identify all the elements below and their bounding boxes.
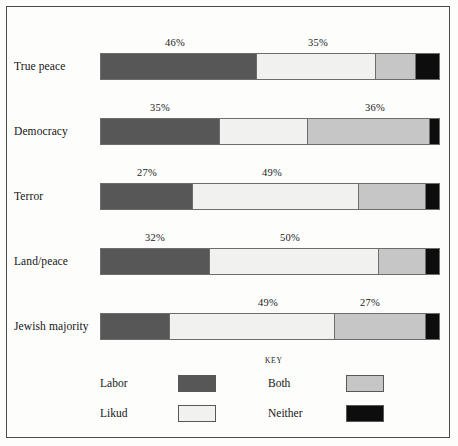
value-label: 35% bbox=[308, 37, 328, 48]
bar-segment-labor bbox=[101, 249, 209, 274]
bar-segment-neither bbox=[425, 249, 439, 274]
chart-row: Land/peace32%50% bbox=[0, 232, 458, 297]
stacked-bar bbox=[100, 248, 440, 275]
bar-segment-likud bbox=[209, 249, 378, 274]
bar-segment-labor bbox=[101, 119, 219, 144]
legend-item-likud: Likud bbox=[100, 402, 216, 424]
legend-swatch-labor bbox=[178, 375, 216, 392]
stacked-bar bbox=[100, 183, 440, 210]
legend-item-labor: Labor bbox=[100, 372, 216, 394]
legend-item-neither: Neither bbox=[268, 402, 384, 424]
legend-swatch-neither bbox=[346, 405, 384, 422]
bar-segment-likud bbox=[219, 119, 307, 144]
category-label: Land/peace bbox=[14, 255, 100, 267]
legend-label: Labor bbox=[100, 377, 178, 389]
category-label: Terror bbox=[14, 190, 100, 202]
bar-segment-both bbox=[375, 54, 416, 79]
bar-segment-labor bbox=[101, 314, 169, 339]
stacked-bar bbox=[100, 313, 440, 340]
figure-container: True peace46%35%Democracy35%36%Terror27%… bbox=[0, 0, 458, 446]
bar-segment-neither bbox=[415, 54, 439, 79]
bar-segment-likud bbox=[256, 54, 374, 79]
category-label: Jewish majority bbox=[14, 320, 100, 332]
value-label: 50% bbox=[280, 232, 300, 243]
bar-segment-both bbox=[334, 314, 425, 339]
stacked-bar bbox=[100, 118, 440, 145]
bar-segment-neither bbox=[425, 314, 439, 339]
value-label: 27% bbox=[137, 167, 157, 178]
bar-segment-likud bbox=[169, 314, 335, 339]
value-label: 32% bbox=[145, 232, 165, 243]
legend-label: Likud bbox=[100, 407, 178, 419]
bar-segment-both bbox=[307, 119, 429, 144]
chart-row: True peace46%35% bbox=[0, 37, 458, 102]
stacked-bar bbox=[100, 53, 440, 80]
legend-label: Neither bbox=[268, 407, 346, 419]
bar-segment-labor bbox=[101, 184, 192, 209]
bar-segment-neither bbox=[425, 184, 439, 209]
bar-segment-neither bbox=[429, 119, 439, 144]
bar-segment-both bbox=[358, 184, 426, 209]
chart-legend: KEY LaborLikudBothNeither bbox=[100, 358, 430, 420]
bar-segment-likud bbox=[192, 184, 358, 209]
value-label: 49% bbox=[262, 167, 282, 178]
value-label: 35% bbox=[150, 102, 170, 113]
value-label: 49% bbox=[258, 297, 278, 308]
value-label: 36% bbox=[365, 102, 385, 113]
legend-item-both: Both bbox=[268, 372, 384, 394]
chart-row: Democracy35%36% bbox=[0, 102, 458, 167]
legend-label: Both bbox=[268, 377, 346, 389]
bar-segment-labor bbox=[101, 54, 256, 79]
legend-swatch-likud bbox=[178, 405, 216, 422]
value-label: 27% bbox=[360, 297, 380, 308]
chart-row: Jewish majority49%27% bbox=[0, 297, 458, 362]
legend-title: KEY bbox=[265, 356, 283, 365]
value-label: 46% bbox=[165, 37, 185, 48]
category-label: True peace bbox=[14, 60, 100, 72]
chart-row: Terror27%49% bbox=[0, 167, 458, 232]
category-label: Democracy bbox=[14, 125, 100, 137]
legend-swatch-both bbox=[346, 375, 384, 392]
bar-segment-both bbox=[378, 249, 425, 274]
